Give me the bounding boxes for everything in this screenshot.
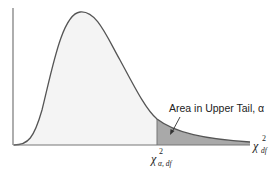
chi-square-chart: Area in Upper Tail, α χ 2 df χ 2 α, df: [0, 0, 275, 174]
x-axis-label: χ 2 df: [252, 134, 268, 155]
critical-value-label: χ 2 α, df: [150, 147, 172, 168]
distribution-area: [14, 12, 157, 145]
svg-text:α, df: α, df: [158, 159, 172, 168]
tail-annotation: Area in Upper Tail, α: [169, 102, 264, 114]
svg-text:df: df: [261, 146, 268, 155]
svg-text:χ: χ: [150, 152, 157, 166]
svg-text:χ: χ: [252, 139, 259, 153]
svg-text:2: 2: [262, 134, 266, 143]
svg-text:2: 2: [159, 147, 163, 156]
